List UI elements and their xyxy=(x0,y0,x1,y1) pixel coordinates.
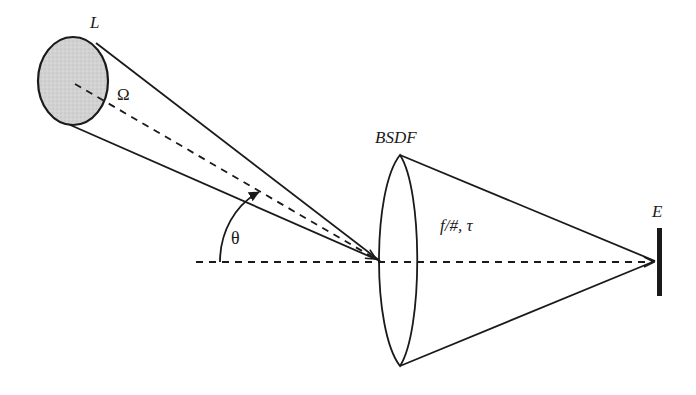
label-angle-theta: θ xyxy=(231,228,240,248)
beam-lower-edge xyxy=(68,124,380,261)
source-disk xyxy=(38,37,108,125)
output-cone-lower-edge xyxy=(400,261,655,366)
label-optic-bsdf: BSDF xyxy=(375,128,417,147)
label-solid-angle: Ω xyxy=(117,85,130,104)
detector-plane xyxy=(657,228,662,296)
optical-radiometry-diagram: L Ω θ BSDF f/#, τ E xyxy=(0,0,696,395)
label-optic-params: f/#, τ xyxy=(440,216,473,235)
label-source-radiance: L xyxy=(89,13,99,32)
output-cone-upper-edge xyxy=(400,155,655,261)
incident-beam xyxy=(68,43,380,261)
diagram-svg: L Ω θ BSDF f/#, τ E xyxy=(0,0,696,395)
label-detector-irradiance: E xyxy=(651,202,663,221)
optic-lens xyxy=(379,155,417,366)
angle-theta-arc xyxy=(220,192,259,262)
